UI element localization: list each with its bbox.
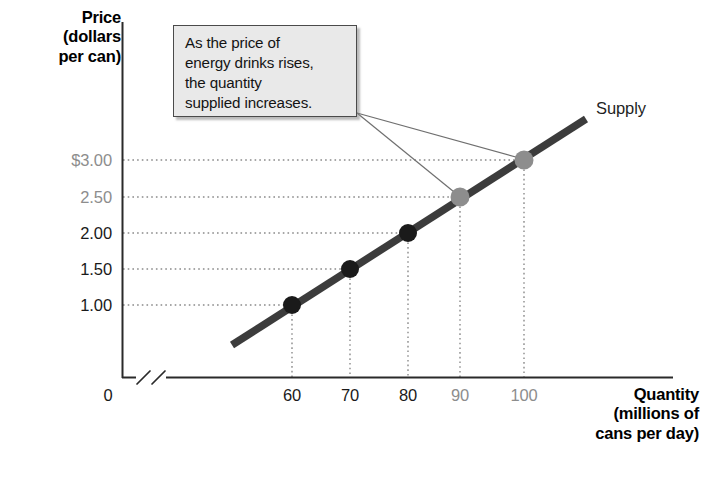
callout-line-1: As the price of	[185, 33, 353, 53]
y-tick-label-1.00: 1.00	[22, 296, 112, 315]
y-tick-label-1.50: 1.50	[22, 260, 112, 279]
supply-curve-figure: Price (dollars per can) Quantity (millio…	[0, 0, 709, 477]
annotation-callout-text: As the price of energy drinks rises, the…	[185, 33, 353, 113]
x-tick-label-90: 90	[433, 386, 487, 405]
origin-label: 0	[93, 386, 123, 405]
callout-line-2: energy drinks rises,	[185, 53, 353, 73]
x-axis-title-line-2: (millions of	[521, 404, 699, 423]
callout-line-3: the quantity	[185, 73, 353, 93]
x-tick-label-70: 70	[323, 386, 377, 405]
data-point-100-3.00	[515, 151, 534, 170]
callout-leader-lines	[357, 113, 523, 196]
annotation-callout-box: As the price of energy drinks rises, the…	[173, 25, 357, 117]
x-tick-label-80: 80	[381, 386, 435, 405]
vertical-droplines	[292, 160, 524, 378]
y-axis-title-line-2: (dollars	[58, 27, 121, 46]
y-axis-title-line-1: Price	[58, 8, 121, 27]
data-point-60-1.00	[283, 296, 301, 314]
x-axis-title-line-3: cans per day)	[521, 424, 699, 443]
y-axis-title-line-3: per can)	[58, 47, 121, 66]
x-tick-label-100: 100	[497, 386, 551, 405]
data-point-90-2.50	[451, 188, 470, 207]
supply-curve-label: Supply	[596, 99, 646, 118]
y-tick-label-3.00: $3.00	[22, 151, 112, 170]
y-tick-label-2.00: 2.00	[22, 224, 112, 243]
y-tick-label-2.50: 2.50	[22, 188, 112, 207]
leader-line-to-100	[357, 113, 523, 159]
axis-break-icon	[137, 371, 165, 384]
x-tick-label-60: 60	[265, 386, 319, 405]
y-axis-title: Price (dollars per can)	[58, 8, 121, 66]
data-point-70-1.50	[341, 260, 359, 278]
callout-line-4: supplied increases.	[185, 93, 353, 113]
leader-line-to-90	[357, 113, 459, 196]
data-point-80-2.00	[399, 224, 417, 242]
